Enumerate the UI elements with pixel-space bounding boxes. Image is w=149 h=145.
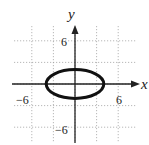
y-tick-neg6: −6 [55, 123, 68, 137]
x-tick-6: 6 [116, 93, 122, 107]
x-axis-arrow-icon [131, 81, 140, 88]
x-axis [12, 81, 140, 88]
y-axis-label: y [66, 6, 75, 22]
y-tick-6: 6 [61, 35, 67, 49]
x-tick-neg6: −6 [16, 93, 29, 107]
x-axis-label: x [140, 76, 148, 92]
y-axis-arrow-icon [72, 25, 79, 34]
ellipse-graph: x y −6 6 6 −6 [0, 0, 149, 145]
